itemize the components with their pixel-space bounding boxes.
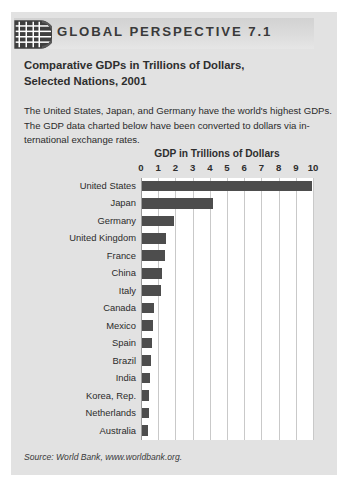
bar-label-germany: Germany bbox=[11, 215, 136, 226]
x-tick-label-2: 2 bbox=[173, 162, 178, 173]
bar-united-kingdom bbox=[142, 233, 166, 244]
bar-row: France bbox=[11, 248, 313, 265]
description-line-2: The GDP data charted below have been con… bbox=[24, 119, 324, 134]
bar-italy bbox=[142, 285, 161, 296]
bar-label-australia: Australia bbox=[11, 425, 136, 436]
bar-netherlands bbox=[142, 408, 149, 419]
bar-label-netherlands: Netherlands bbox=[11, 407, 136, 418]
bar-row: Spain bbox=[11, 335, 313, 352]
gridline-10 bbox=[313, 178, 314, 440]
bar-label-united-states: United States bbox=[11, 180, 136, 191]
bar-spain bbox=[142, 338, 152, 349]
x-tick-label-3: 3 bbox=[190, 162, 195, 173]
bar-row: Australia bbox=[11, 423, 313, 440]
x-axis-tick-labels: 012345678910 bbox=[141, 162, 313, 176]
x-tick-label-4: 4 bbox=[207, 162, 212, 173]
figure-description: The United States, Japan, and Germany ha… bbox=[24, 104, 324, 148]
description-line-1: The United States, Japan, and Germany ha… bbox=[24, 104, 324, 119]
caption-line-2: Selected Nations, 2001 bbox=[24, 74, 314, 90]
bar-row: India bbox=[11, 370, 313, 387]
bar-label-spain: Spain bbox=[11, 337, 136, 348]
x-tick-label-8: 8 bbox=[276, 162, 281, 173]
bar-label-italy: Italy bbox=[11, 285, 136, 296]
bar-row: Brazil bbox=[11, 353, 313, 370]
bar-label-brazil: Brazil bbox=[11, 355, 136, 366]
description-line-3: ternational exchange rates. bbox=[24, 133, 324, 148]
x-tick-label-6: 6 bbox=[242, 162, 247, 173]
x-tick-label-0: 0 bbox=[138, 162, 143, 173]
bar-row: Netherlands bbox=[11, 405, 313, 422]
global-perspective-figure: GLOBAL PERSPECTIVE 7.1 Comparative GDPs … bbox=[0, 0, 348, 499]
bar-label-france: France bbox=[11, 250, 136, 261]
bar-label-united-kingdom: United Kingdom bbox=[11, 232, 136, 243]
bar-row: Germany bbox=[11, 213, 313, 230]
bar-france bbox=[142, 250, 165, 261]
x-tick-label-10: 10 bbox=[308, 162, 319, 173]
bar-label-korea-rep: Korea, Rep. bbox=[11, 390, 136, 401]
caption-line-1: Comparative GDPs in Trillions of Dollars… bbox=[24, 58, 314, 74]
bar-label-china: China bbox=[11, 267, 136, 278]
bar-row: Italy bbox=[11, 283, 313, 300]
globe-grid-icon bbox=[14, 20, 52, 49]
bar-china bbox=[142, 268, 162, 279]
bar-rows: United StatesJapanGermanyUnited KingdomF… bbox=[11, 178, 313, 440]
chart-axis-title: GDP in Trillions of Dollars bbox=[107, 148, 327, 159]
bar-chart: GDP in Trillions of Dollars 012345678910… bbox=[11, 148, 337, 448]
figure-caption: Comparative GDPs in Trillions of Dollars… bbox=[24, 58, 314, 89]
bar-label-mexico: Mexico bbox=[11, 320, 136, 331]
x-tick-label-7: 7 bbox=[259, 162, 264, 173]
bar-row: Korea, Rep. bbox=[11, 388, 313, 405]
bar-canada bbox=[142, 303, 154, 314]
bar-row: Mexico bbox=[11, 318, 313, 335]
bar-row: United States bbox=[11, 178, 313, 195]
bar-row: China bbox=[11, 265, 313, 282]
x-tick-label-5: 5 bbox=[224, 162, 229, 173]
x-tick-label-9: 9 bbox=[293, 162, 298, 173]
bar-row: United Kingdom bbox=[11, 230, 313, 247]
bar-india bbox=[142, 373, 150, 384]
figure-header: GLOBAL PERSPECTIVE 7.1 bbox=[11, 12, 337, 54]
header-title: GLOBAL PERSPECTIVE 7.1 bbox=[57, 24, 272, 39]
bar-row: Japan bbox=[11, 195, 313, 212]
bar-korea-rep bbox=[142, 390, 149, 401]
bar-label-india: India bbox=[11, 372, 136, 383]
bar-label-japan: Japan bbox=[11, 197, 136, 208]
bar-brazil bbox=[142, 355, 151, 366]
bar-label-canada: Canada bbox=[11, 302, 136, 313]
bar-row: Canada bbox=[11, 300, 313, 317]
bar-united-states bbox=[142, 181, 312, 192]
bar-japan bbox=[142, 198, 213, 209]
x-tick-label-1: 1 bbox=[156, 162, 161, 173]
figure-panel: GLOBAL PERSPECTIVE 7.1 Comparative GDPs … bbox=[11, 12, 337, 475]
bar-mexico bbox=[142, 320, 153, 331]
bar-australia bbox=[142, 425, 148, 436]
bar-germany bbox=[142, 216, 174, 227]
source-note: Source: World Bank, www.worldbank.org. bbox=[24, 452, 182, 462]
